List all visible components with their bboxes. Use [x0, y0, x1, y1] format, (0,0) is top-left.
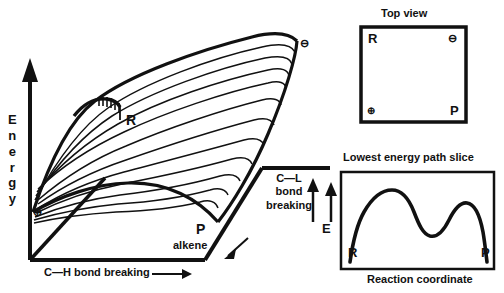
ch-axis-arrowhead	[182, 269, 192, 279]
cl-bond-breaking-axis-label: C—L bond breaking	[258, 172, 320, 212]
top-view-corner-reactant: R	[368, 32, 377, 45]
cl-bond-label-line2: bond	[276, 185, 303, 198]
ch-bond-breaking-axis-label: C—H bond breaking	[44, 267, 150, 278]
energy-letter-2: e	[9, 144, 16, 160]
floor-depth-edge	[205, 168, 262, 260]
energy-axis-arrowhead	[22, 58, 38, 82]
slice-reaction-coordinate-label: Reaction coordinate	[367, 274, 473, 285]
energy-axis-label: E n e r g y	[8, 112, 17, 207]
slice-energy-axis-arrowhead	[325, 182, 337, 196]
anion-symbol-surface: ⊖	[300, 38, 309, 49]
cl-bond-label-line1: C—L	[276, 172, 302, 185]
energy-letter-1: n	[8, 128, 16, 144]
energy-letter-3: r	[10, 160, 15, 176]
slice-panel-title: Lowest energy path slice	[343, 152, 474, 163]
energy-letter-4: g	[8, 175, 16, 191]
energy-letter-0: E	[8, 112, 17, 128]
top-view-corner-anion: ⊖	[448, 33, 457, 44]
reactant-label-surface: R	[126, 113, 136, 127]
e2-elimination-energy-surface-figure: E n e r g y ⊕ ⊖ R P alkene C—H bond brea…	[0, 0, 504, 293]
lowest-energy-path-curve	[350, 190, 487, 262]
top-view-corner-cation: ⊕	[367, 106, 375, 116]
cation-symbol-surface: ⊕	[33, 207, 42, 218]
figure-vector-layer	[0, 0, 504, 293]
slice-start-label-reactant: R	[348, 246, 357, 259]
product-sublabel-alkene: alkene	[173, 240, 207, 251]
top-view-title: Top view	[381, 8, 427, 19]
product-label-surface: P	[196, 222, 205, 236]
slice-end-label-product: P	[481, 246, 490, 259]
top-view-corner-product: P	[450, 104, 459, 117]
slice-energy-axis-label: E	[322, 222, 331, 235]
cl-bond-label-line3: breaking	[266, 199, 312, 212]
energy-letter-5: y	[9, 191, 16, 207]
